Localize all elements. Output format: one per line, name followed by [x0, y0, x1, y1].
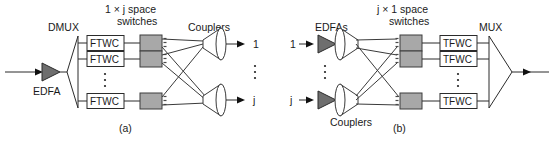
panel-a-outputs-ellipsis [254, 65, 256, 79]
panel-b-input-arrowhead-1 [306, 41, 314, 48]
panel-a-edfa-label: EDFA [33, 85, 60, 97]
panel-b-switches-label-line2: switches [389, 15, 429, 27]
panel-b-input-label-2: j [289, 94, 292, 106]
panel-a-caption: (a) [119, 122, 132, 134]
panel-a-output-arrowhead-2 [237, 97, 245, 104]
panel-b-space-switch-3[interactable] [396, 93, 423, 109]
panel-b-edfa-2 [318, 91, 336, 109]
panel-a: 1 × j space switches DMUX Couplers EDFA … [5, 3, 259, 134]
panel-a-converter-1-label: FTWC [90, 38, 119, 49]
panel-b-interconnect-fibers [356, 39, 399, 105]
panel-b-switches-label-line1: j × 1 space [376, 3, 428, 15]
panel-b-converter-1-label: TFWC [443, 38, 472, 49]
panel-a-output-label-1: 1 [253, 38, 259, 50]
panel-a-converter-2-label: FTWC [90, 54, 119, 65]
panel-a-space-switch-3[interactable] [140, 93, 167, 109]
panel-b-couplers-label: Couplers [330, 116, 372, 128]
panel-b-edfa-1 [318, 35, 336, 53]
panel-b-mux-label: MUX [479, 21, 502, 33]
panel-b-space-switch-2[interactable] [396, 51, 423, 67]
panel-a-output-arrowhead-1 [237, 41, 245, 48]
figure-container: 1 × j space switches DMUX Couplers EDFA … [0, 0, 554, 147]
panel-b-output-arrowhead [523, 69, 531, 76]
panel-a-switches-label-line1: 1 × j space [105, 3, 156, 15]
panel-a-interconnect-fibers [162, 39, 206, 105]
panel-b-converter-3[interactable]: TFWC [440, 94, 477, 109]
panel-a-switches-label-line2: switches [117, 15, 157, 27]
panel-a-converter-1[interactable]: FTWC [87, 36, 124, 51]
panel-a-dmux [67, 36, 78, 108]
panel-a-edfa-amplifier [42, 63, 60, 81]
panel-a-converter-2[interactable]: FTWC [87, 52, 124, 67]
panel-b-converter-2-label: TFWC [443, 54, 472, 65]
panel-a-dmux-label: DMUX [48, 21, 79, 33]
panel-b-caption: (b) [393, 122, 406, 134]
panel-b-input-label-1: 1 [290, 38, 296, 50]
panel-b-converter-3-label: TFWC [443, 96, 472, 107]
panel-b-inputs-ellipsis [324, 65, 326, 79]
panel-a-space-switch-2[interactable] [140, 51, 167, 67]
panel-b-converter-1[interactable]: TFWC [440, 36, 477, 51]
panel-b-converters-ellipsis [457, 73, 459, 87]
panel-a-coupler-2 [203, 84, 226, 116]
panel-b-mux [489, 36, 512, 108]
panel-a-converters-ellipsis [104, 73, 106, 87]
panel-b-coupler-2 [335, 84, 358, 116]
panel-a-converter-3-label: FTWC [90, 96, 119, 107]
panel-a-converter-3[interactable]: FTWC [87, 94, 124, 109]
panel-b-converter-2[interactable]: TFWC [440, 52, 477, 67]
panel-b: j × 1 space switches EDFAs MUX 1 j [289, 3, 549, 134]
panel-b-input-arrowhead-2 [306, 97, 314, 104]
panel-a-space-switch-1[interactable] [140, 35, 167, 51]
panel-a-output-label-2: j [252, 94, 255, 106]
panel-b-coupler-1 [335, 28, 358, 60]
panel-b-space-switch-1[interactable] [396, 35, 423, 51]
